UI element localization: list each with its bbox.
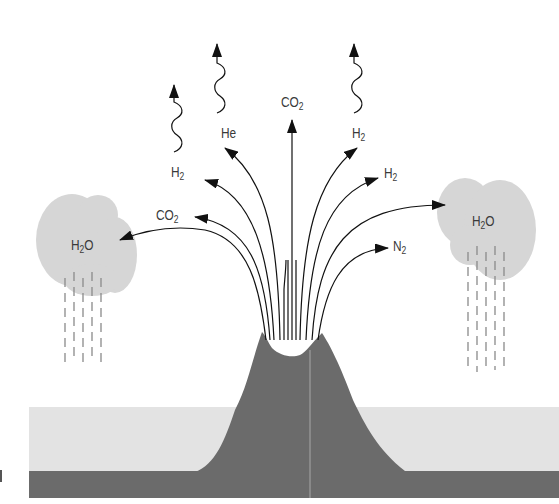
- edge-mark: [0, 470, 2, 482]
- gas-arrows: [120, 120, 445, 340]
- cloud-right: [437, 178, 536, 280]
- gas-label-h2-upper-right: H2: [352, 126, 365, 140]
- volcanic-outgassing-diagram: He H2 CO2 CO2 H2 H2 N2 H2O H2O: [0, 0, 559, 504]
- gas-label-he: He: [221, 126, 236, 140]
- gas-label-co2-left: CO2: [156, 208, 179, 222]
- gas-label-h2-right: H2: [384, 166, 397, 180]
- gas-label-h2-upper-left: H2: [171, 165, 184, 179]
- wavy-arrow-h2-left: [172, 85, 182, 152]
- gas-label-co2-top: CO2: [281, 95, 304, 109]
- arrow-to-cloud-right: [312, 205, 445, 340]
- escape-arrows: [172, 44, 362, 152]
- arrow-h2-right: [306, 178, 378, 340]
- arrow-h2-upper-right: [300, 148, 357, 340]
- cloud-label-left: H2O: [71, 238, 94, 252]
- wavy-arrow-he: [215, 44, 225, 113]
- wavy-arrow-h2-right: [352, 44, 362, 113]
- vent-line: [284, 260, 286, 340]
- cloud-label-right: H2O: [472, 214, 495, 228]
- arrow-co2-left: [195, 217, 270, 340]
- gas-label-n2: N2: [393, 239, 406, 253]
